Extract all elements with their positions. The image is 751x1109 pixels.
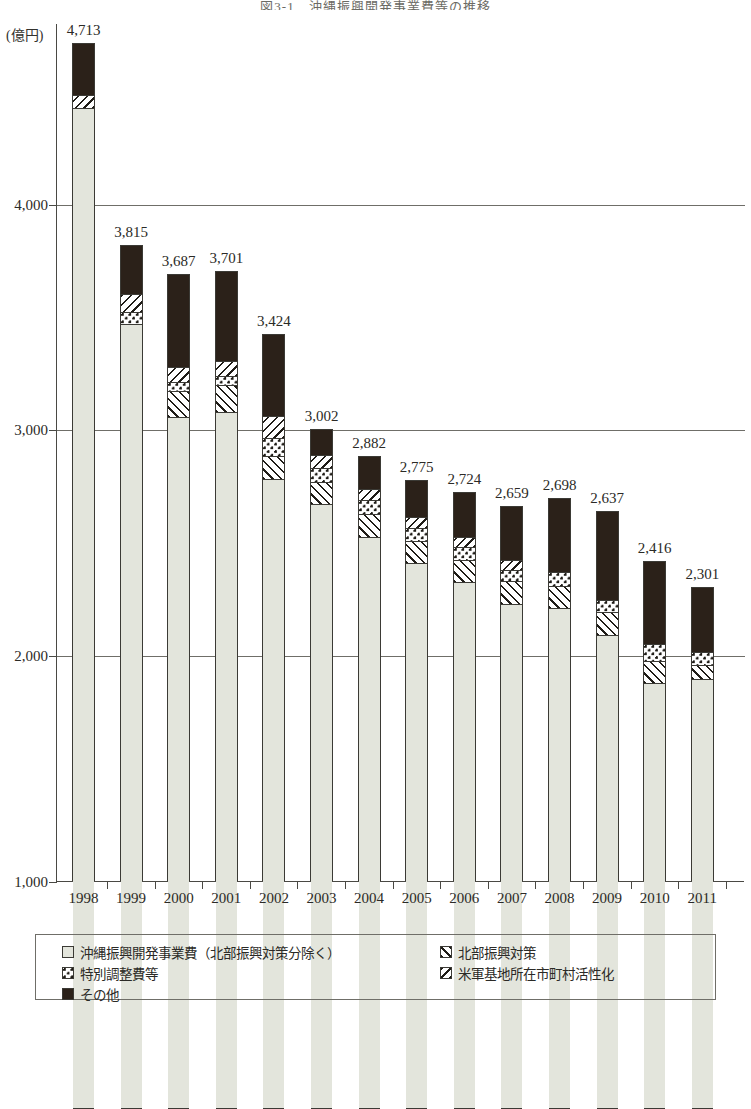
bar-segment-beigun-2006 [454, 537, 475, 547]
y-tick-1000 [49, 882, 57, 883]
bar-segment-base-2009 [597, 635, 618, 1108]
figure-title: 図3-1 沖縄振興開発事業費等の推移 [0, 0, 751, 10]
y-axis-unit-label: (億円) [6, 24, 43, 44]
bar-segment-beigun-2005 [406, 517, 427, 527]
bar-segment-hokubu-2009 [597, 612, 618, 635]
x-axis-label-2010: 2010 [640, 890, 670, 907]
bar-2005 [405, 480, 428, 881]
bar-value-label-2007: 2,659 [495, 485, 529, 502]
bar-segment-sonota-2010 [644, 562, 665, 643]
bar-segment-chousei-2001 [216, 376, 237, 385]
bar-segment-sonota-1998 [73, 44, 94, 95]
x-tick-2006 [488, 882, 489, 889]
legend-item-hokubu: 北部振興対策 [440, 942, 536, 962]
gridline-2000 [57, 656, 745, 657]
bar-value-label-2009: 2,637 [590, 490, 624, 507]
bar-segment-beigun-2000 [168, 367, 189, 382]
bar-segment-beigun-2001 [216, 361, 237, 376]
legend-swatch-sonota [62, 988, 74, 1000]
legend-item-beigun: 米軍基地所在市町村活性化 [440, 963, 614, 983]
x-tick-2002 [297, 882, 298, 889]
x-tick-2005 [440, 882, 441, 889]
bar-value-label-1998: 4,713 [67, 22, 101, 39]
bar-segment-base-2006 [454, 582, 475, 1107]
y-tick-3000 [49, 430, 57, 431]
bar-1999 [120, 245, 143, 881]
x-axis-label-2002: 2002 [259, 890, 289, 907]
bar-segment-hokubu-2001 [216, 385, 237, 411]
bar-value-label-2005: 2,775 [400, 459, 434, 476]
bar-segment-hokubu-2008 [549, 586, 570, 609]
bar-segment-hokubu-2010 [644, 661, 665, 684]
x-tick-2004 [393, 882, 394, 889]
bar-segment-sonota-2008 [549, 499, 570, 573]
x-axis-label-1998: 1998 [69, 890, 99, 907]
bar-2000 [167, 274, 190, 881]
bar-segment-hokubu-2004 [359, 514, 380, 537]
bar-value-label-2010: 2,416 [638, 540, 672, 557]
legend-item-sonota: その他 [62, 984, 119, 1004]
bar-segment-beigun-2007 [501, 560, 522, 569]
bar-segment-chousei-2005 [406, 528, 427, 541]
legend-label-base: 沖縄振興開発事業費（北部振興対策分除く） [80, 942, 340, 962]
bar-segment-sonota-2002 [263, 335, 284, 416]
legend-swatch-beigun [440, 967, 452, 979]
x-tick-1999 [155, 882, 156, 889]
legend-item-base: 沖縄振興開発事業費（北部振興対策分除く） [62, 942, 340, 962]
bar-value-label-2011: 2,301 [685, 566, 719, 583]
bar-2001 [215, 271, 238, 881]
x-axis-label-1999: 1999 [116, 890, 146, 907]
plot-area: 4,7133,8153,6873,7013,4243,0022,8822,775… [56, 24, 744, 882]
y-axis-label-2000: 2,000 [14, 648, 48, 665]
x-tick-2010 [678, 882, 679, 889]
bar-segment-chousei-2007 [501, 570, 522, 582]
bar-2002 [262, 334, 285, 881]
bar-segment-chousei-2009 [597, 600, 618, 612]
bar-segment-base-2005 [406, 563, 427, 1108]
bar-value-label-2002: 3,424 [257, 313, 291, 330]
bar-value-label-2000: 3,687 [162, 253, 196, 270]
x-axis-label-2009: 2009 [592, 890, 622, 907]
x-tick-2008 [583, 882, 584, 889]
bar-segment-beigun-1999 [121, 294, 142, 312]
x-axis-label-2005: 2005 [402, 890, 432, 907]
y-axis-label-4000: 4,000 [14, 196, 48, 213]
x-axis-label-2001: 2001 [211, 890, 241, 907]
y-tick-2000 [49, 656, 57, 657]
bar-segment-base-2008 [549, 608, 570, 1107]
legend-label-sonota: その他 [80, 984, 119, 1004]
bar-segment-base-2003 [311, 504, 332, 1107]
bar-segment-chousei-2010 [644, 644, 665, 661]
x-tick-2001 [250, 882, 251, 889]
y-axis-label-1000: 1,000 [14, 874, 48, 891]
x-axis-label-2000: 2000 [164, 890, 194, 907]
x-axis-label-2011: 2011 [688, 890, 717, 907]
x-axis-label-2008: 2008 [545, 890, 575, 907]
legend-swatch-base [62, 946, 74, 958]
x-axis-label-2006: 2006 [449, 890, 479, 907]
bar-value-label-2001: 3,701 [209, 250, 243, 267]
bar-segment-hokubu-2002 [263, 456, 284, 480]
bar-segment-sonota-2007 [501, 507, 522, 560]
bar-segment-chousei-2011 [692, 652, 713, 666]
bar-segment-base-2004 [359, 537, 380, 1108]
y-axis-label-3000: 3,000 [14, 422, 48, 439]
bar-2008 [548, 498, 571, 881]
bar-segment-base-2001 [216, 412, 237, 1108]
bar-1998 [72, 43, 95, 881]
legend-label-chousei: 特別調整費等 [80, 963, 158, 983]
bar-segment-chousei-2008 [549, 572, 570, 586]
bar-segment-sonota-2009 [597, 512, 618, 600]
bar-value-label-2008: 2,698 [543, 477, 577, 494]
bar-segment-sonota-2000 [168, 275, 189, 366]
bar-segment-beigun-2003 [311, 455, 332, 469]
bar-value-label-2003: 3,002 [305, 408, 339, 425]
bar-segment-base-2002 [263, 479, 284, 1107]
bar-2011 [691, 587, 714, 881]
bar-segment-sonota-2001 [216, 272, 237, 361]
legend-swatch-chousei [62, 967, 74, 979]
bar-2010 [643, 561, 666, 881]
bar-segment-base-2000 [168, 417, 189, 1108]
x-tick-2003 [345, 882, 346, 889]
x-axis-label-2003: 2003 [307, 890, 337, 907]
